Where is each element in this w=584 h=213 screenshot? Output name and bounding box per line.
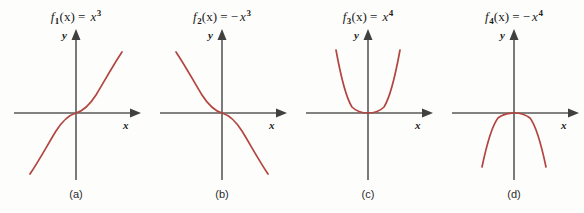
panel-a-plot: x y	[3, 26, 149, 186]
panel-b-y-axis-arrow	[218, 29, 227, 40]
panel-a-x-axis-arrow	[130, 109, 141, 118]
panel-c-exponent: 4	[388, 8, 393, 18]
panel-b-x-axis-arrow	[276, 109, 287, 118]
panel-c-x-axis-label: x	[414, 119, 421, 131]
panel-c-x-axis-arrow	[422, 109, 433, 118]
panel-d-y-axis-arrow	[510, 29, 519, 40]
panel-d-y-axis-label: y	[498, 29, 505, 41]
panel-b-caption: (b)	[149, 188, 295, 200]
power-functions-figure: f1(x)=x3 x y (a) f2(x)=−x3 x y (b)	[0, 0, 584, 213]
panel-b: f2(x)=−x3 x y (b)	[149, 0, 295, 213]
panel-d-func-args: (x)	[494, 9, 509, 24]
panel-d-plot: x y	[441, 26, 584, 186]
panel-a-x-axis-label: x	[122, 119, 129, 131]
panel-a: f1(x)=x3 x y (a)	[3, 0, 149, 213]
panel-c-caption: (c)	[295, 188, 441, 200]
panel-a-y-axis-label: y	[60, 29, 67, 41]
panel-c-plot: x y	[295, 26, 441, 186]
panel-c-y-axis-arrow	[364, 29, 373, 40]
panel-c: f3(x)=x4 x y (c)	[295, 0, 441, 213]
panel-d: f4(x)=−x4 x y (d)	[441, 0, 584, 213]
panel-a-func-args: (x)	[59, 9, 74, 24]
panel-d-sign: −	[523, 9, 532, 24]
panel-a-title: f1(x)=x3	[3, 8, 149, 26]
panel-b-y-axis-label: y	[206, 29, 213, 41]
panel-a-y-axis-arrow	[72, 29, 81, 40]
panel-a-exponent: 3	[96, 8, 101, 18]
panel-b-x-axis-label: x	[268, 119, 275, 131]
panel-c-y-axis-label: y	[352, 29, 359, 41]
panel-c-func-args: (x)	[351, 9, 366, 24]
panel-a-caption: (a)	[3, 188, 149, 200]
panel-c-equals: =	[367, 9, 380, 24]
panel-d-x-axis-label: x	[560, 119, 567, 131]
panel-d-title: f4(x)=−x4	[441, 8, 584, 26]
panel-c-title: f3(x)=x4	[295, 8, 441, 26]
panel-d-equals: =	[509, 9, 522, 24]
panel-b-exponent: 3	[246, 8, 251, 18]
panel-b-equals: =	[217, 9, 230, 24]
panel-d-caption: (d)	[441, 188, 584, 200]
panel-b-sign: −	[231, 9, 240, 24]
panel-d-exponent: 4	[538, 8, 543, 18]
panel-b-func-args: (x)	[202, 9, 217, 24]
panel-b-plot: x y	[149, 26, 295, 186]
panel-a-equals: =	[75, 9, 88, 24]
panel-d-x-axis-arrow	[568, 109, 579, 118]
panel-b-title: f2(x)=−x3	[149, 8, 295, 26]
